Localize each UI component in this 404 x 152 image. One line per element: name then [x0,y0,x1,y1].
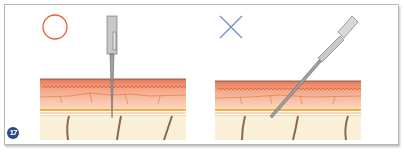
correct-panel [40,15,186,140]
injection-diagram [0,0,404,152]
incorrect-panel [215,16,361,140]
correct-circle-icon [43,15,67,39]
incorrect-cross-icon [220,16,242,38]
figure-number-badge: 17 [7,127,19,139]
